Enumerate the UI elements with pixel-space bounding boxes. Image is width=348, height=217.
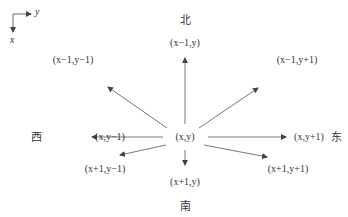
neighbor-southwest: (x+1,y−1) [85, 164, 125, 174]
neighbor-northeast: (x−1,y+1) [277, 55, 317, 65]
axis-x-label: x [10, 35, 14, 45]
neighbor-south: (x+1,y) [170, 177, 200, 187]
neighbor-north: (x−1,y) [170, 38, 200, 48]
neighbor-west: (x,y−1) [95, 132, 125, 142]
neighbor-east: (x,y+1) [294, 132, 324, 142]
arrow-southwest [120, 145, 166, 155]
arrow-northwest [108, 87, 167, 128]
arrow-southeast [204, 145, 267, 157]
center-label: (x,y) [175, 132, 194, 142]
direction-south: 南 [180, 201, 191, 212]
axis-indicator [13, 14, 31, 32]
neighbor-northwest: (x−1,y−1) [53, 55, 93, 65]
neighbor-southeast: (x+1,y+1) [268, 164, 308, 174]
direction-north: 北 [180, 15, 191, 26]
axis-y-label: y [35, 7, 39, 17]
arrow-northeast [199, 88, 258, 128]
direction-west: 西 [31, 132, 42, 143]
direction-east: 东 [331, 132, 342, 143]
